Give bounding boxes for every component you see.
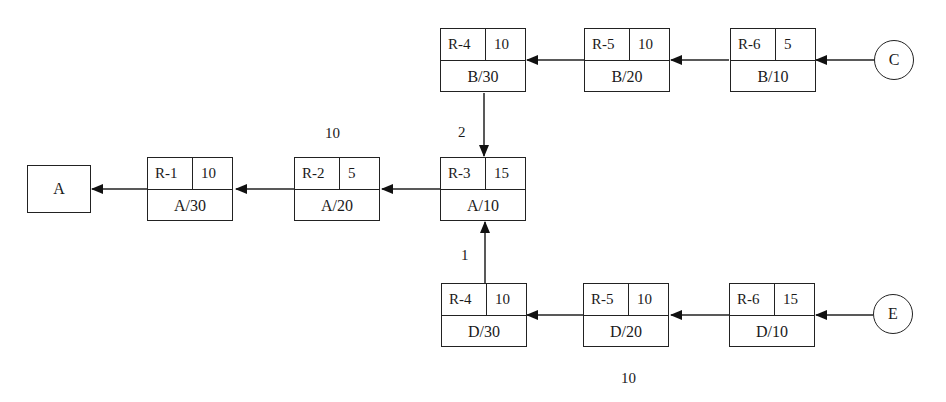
node-qty: 10 <box>629 284 668 315</box>
node-qty: 10 <box>487 284 526 315</box>
node-qty: 15 <box>486 158 525 189</box>
source-node-e: E <box>873 294 913 334</box>
node-r6-b: R-65 B/10 <box>730 28 816 92</box>
node-lot: A/20 <box>295 190 379 221</box>
node-lot: A/10 <box>441 190 525 221</box>
node-id: R-5 <box>585 29 630 60</box>
node-qty: 10 <box>193 158 232 189</box>
node-r5-d: R-510 D/20 <box>583 283 669 347</box>
node-qty: 10 <box>486 29 525 60</box>
node-id: R-4 <box>442 284 487 315</box>
node-lot: A/30 <box>148 190 232 221</box>
sink-label: A <box>53 180 65 197</box>
node-id: R-1 <box>148 158 193 189</box>
node-r2: R-25 A/20 <box>294 157 380 221</box>
branch-label-2: 2 <box>458 124 466 141</box>
node-id: R-2 <box>295 158 340 189</box>
source-label: E <box>888 305 898 322</box>
branch-label-1: 1 <box>461 247 469 264</box>
node-lot: D/20 <box>584 316 668 347</box>
source-node-c: C <box>874 40 914 80</box>
node-r3: R-315 A/10 <box>440 157 526 221</box>
node-lot: B/30 <box>441 61 525 92</box>
source-label: C <box>889 51 900 68</box>
sink-node: A <box>27 165 91 213</box>
node-r1: R-110 A/30 <box>147 157 233 221</box>
node-id: R-6 <box>730 284 775 315</box>
node-r6-d: R-615 D/10 <box>729 283 815 347</box>
node-lot: B/10 <box>731 61 815 92</box>
node-r4-b: R-410 B/30 <box>440 28 526 92</box>
node-qty: 5 <box>776 29 815 60</box>
quantity-label: 10 <box>621 370 636 387</box>
node-qty: 15 <box>775 284 814 315</box>
node-lot: B/20 <box>585 61 669 92</box>
node-lot: D/30 <box>442 316 526 347</box>
node-qty: 5 <box>340 158 379 189</box>
quantity-label: 10 <box>325 125 340 142</box>
node-id: R-6 <box>731 29 776 60</box>
node-id: R-3 <box>441 158 486 189</box>
node-qty: 10 <box>630 29 669 60</box>
node-id: R-5 <box>584 284 629 315</box>
node-r5-b: R-510 B/20 <box>584 28 670 92</box>
node-lot: D/10 <box>730 316 814 347</box>
node-r4-d: R-410 D/30 <box>441 283 527 347</box>
node-id: R-4 <box>441 29 486 60</box>
